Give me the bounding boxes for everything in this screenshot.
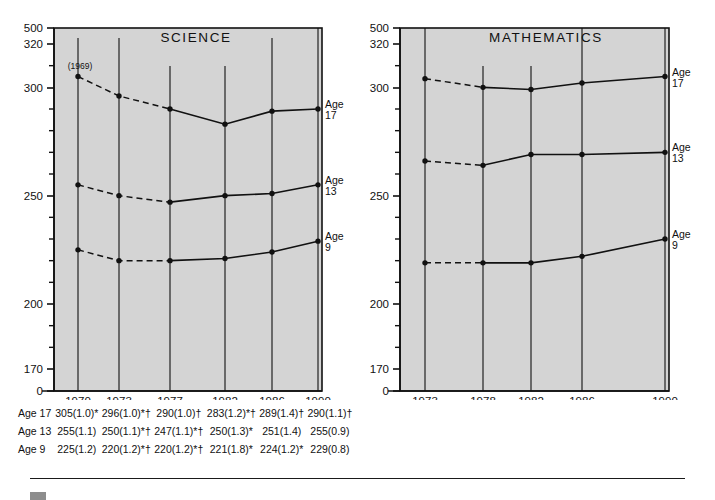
svg-text:1990: 1990 (652, 395, 678, 400)
cell: 255(1.1) (54, 422, 100, 440)
svg-text:300: 300 (24, 82, 43, 94)
cell: 290(1.0)† (153, 404, 206, 422)
cell: 255(0.9) (306, 422, 354, 440)
svg-text:9: 9 (325, 241, 331, 253)
table-row: Age 17 305(1.0)* 296(1.0)*† 290(1.0)† 28… (18, 404, 354, 422)
mathematics-plot: 500320300250200170019731978198219861990M… (356, 0, 715, 400)
mathematics-chart-panel: 500320300250200170019731978198219861990M… (356, 0, 715, 500)
svg-text:0: 0 (37, 385, 43, 397)
svg-text:200: 200 (24, 298, 43, 310)
cell: 251(1.4) (258, 422, 306, 440)
corner-mark (30, 492, 46, 500)
svg-text:170: 170 (370, 363, 389, 375)
svg-text:(1969): (1969) (68, 61, 93, 71)
svg-text:17: 17 (672, 77, 684, 89)
cell: 283(1.2)*† (205, 404, 258, 422)
svg-text:1977: 1977 (157, 395, 183, 400)
svg-text:170: 170 (24, 363, 43, 375)
svg-text:1970: 1970 (65, 395, 91, 400)
svg-text:320: 320 (370, 38, 389, 50)
svg-text:1990: 1990 (305, 395, 331, 400)
svg-text:300: 300 (370, 82, 389, 94)
svg-text:13: 13 (325, 185, 337, 197)
science-plot: 5003203002502001700197019731977198219861… (0, 0, 356, 400)
row-label-age9: Age 9 (18, 440, 54, 458)
cell: 221(1.8)* (205, 440, 258, 458)
cell: 289(1.4)† (258, 404, 306, 422)
svg-text:320: 320 (24, 38, 43, 50)
svg-text:500: 500 (24, 22, 43, 34)
svg-text:1978: 1978 (470, 395, 496, 400)
svg-text:1973: 1973 (412, 395, 438, 400)
svg-text:SCIENCE: SCIENCE (160, 30, 231, 45)
svg-text:1982: 1982 (518, 395, 544, 400)
cell: 305(1.0)* (54, 404, 100, 422)
cell: 296(1.0)*† (100, 404, 153, 422)
svg-text:13: 13 (672, 152, 684, 164)
svg-text:200: 200 (370, 298, 389, 310)
svg-text:1986: 1986 (259, 395, 285, 400)
svg-text:17: 17 (325, 109, 337, 121)
science-data-table: Age 17 305(1.0)* 296(1.0)*† 290(1.0)† 28… (18, 404, 354, 458)
svg-text:9: 9 (672, 239, 678, 251)
svg-text:1986: 1986 (569, 395, 595, 400)
cell: 250(1.1)*† (100, 422, 153, 440)
footer-divider (30, 478, 685, 479)
table-row: Age 9 225(1.2) 220(1.2)*† 220(1.2)*† 221… (18, 440, 354, 458)
svg-text:0: 0 (383, 385, 389, 397)
svg-text:1982: 1982 (212, 395, 238, 400)
cell: 247(1.1)*† (153, 422, 206, 440)
table-row: Age 13 255(1.1) 250(1.1)*† 247(1.1)*† 25… (18, 422, 354, 440)
row-label-age13: Age 13 (18, 422, 54, 440)
svg-text:500: 500 (370, 22, 389, 34)
cell: 250(1.3)* (205, 422, 258, 440)
cell: 229(0.8) (306, 440, 354, 458)
science-chart-panel: 5003203002502001700197019731977198219861… (0, 0, 356, 500)
svg-text:250: 250 (24, 190, 43, 202)
cell: 290(1.1)† (306, 404, 354, 422)
cell: 220(1.2)*† (153, 440, 206, 458)
cell: 225(1.2) (54, 440, 100, 458)
svg-text:1973: 1973 (106, 395, 132, 400)
cell: 224(1.2)* (258, 440, 306, 458)
row-label-age17: Age 17 (18, 404, 54, 422)
svg-text:250: 250 (370, 190, 389, 202)
cell: 220(1.2)*† (100, 440, 153, 458)
svg-text:MATHEMATICS: MATHEMATICS (489, 30, 603, 45)
